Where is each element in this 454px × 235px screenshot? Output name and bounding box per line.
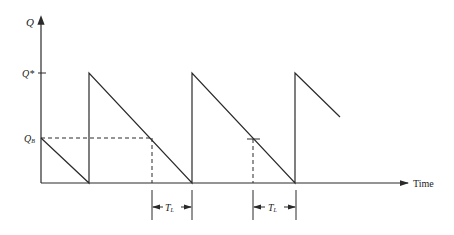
lead-time-label-1: TL <box>165 202 175 213</box>
inventory-sawtooth-line <box>41 73 340 183</box>
y-axis-label: Q <box>26 16 34 28</box>
x-axis-label: Time <box>413 178 434 189</box>
diagram-canvas: Q Q* QB TL TL Time <box>0 0 454 235</box>
lead-time-marker-2: TL <box>253 190 296 220</box>
q-star-label: Q* <box>22 68 34 79</box>
lead-time-label-2: TL <box>268 202 278 213</box>
lead-time-marker-1: TL <box>152 190 192 220</box>
inventory-diagram: Q Q* QB TL TL Time <box>0 0 454 235</box>
q-b-label: QB <box>24 133 35 144</box>
